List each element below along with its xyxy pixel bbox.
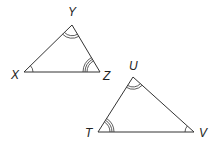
angle-mark-x bbox=[30, 66, 33, 72]
similar-triangles-diagram: Y X Z U T V bbox=[0, 0, 214, 145]
angle-mark-v bbox=[185, 126, 187, 132]
diagram-svg: Y X Z U T V bbox=[0, 0, 214, 145]
vertex-label-y: Y bbox=[68, 5, 77, 19]
vertex-label-t: T bbox=[85, 126, 94, 140]
triangle-tuv-outline bbox=[98, 77, 194, 132]
vertex-label-z: Z bbox=[102, 69, 111, 83]
angle-mark-t bbox=[104, 119, 114, 133]
vertex-label-v: V bbox=[199, 126, 208, 140]
triangle-xyz: Y X Z bbox=[10, 5, 111, 83]
vertex-label-u: U bbox=[129, 59, 138, 73]
vertex-label-x: X bbox=[10, 68, 20, 82]
angle-mark-z bbox=[83, 58, 94, 73]
